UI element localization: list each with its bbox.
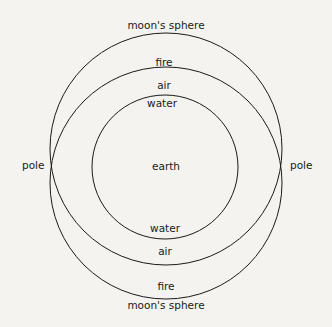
label-moon-sphere-top: moon's sphere [127,20,204,31]
label-earth: earth [152,161,180,172]
label-water-top: water [147,98,177,109]
label-water-bottom: water [150,223,180,234]
label-fire-bottom: fire [157,281,174,292]
label-pole-right: pole [290,160,312,171]
label-fire-top: fire [155,57,172,68]
label-air-top: air [157,80,171,91]
label-moon-sphere-bottom: moon's sphere [127,300,204,311]
label-pole-left: pole [22,160,44,171]
label-air-bottom: air [158,246,172,257]
